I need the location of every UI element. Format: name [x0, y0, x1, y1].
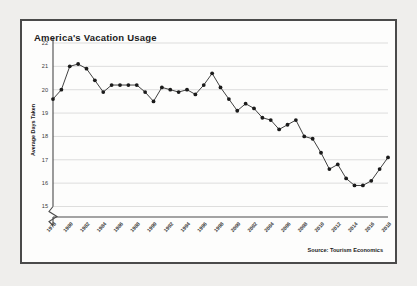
svg-text:2016: 2016 — [363, 221, 375, 234]
svg-text:2014: 2014 — [347, 221, 359, 234]
svg-text:22: 22 — [42, 40, 48, 46]
svg-text:16: 16 — [42, 180, 48, 186]
svg-text:15: 15 — [42, 203, 48, 209]
data-point-markers — [51, 62, 390, 187]
svg-text:1992: 1992 — [162, 221, 174, 234]
line-chart-svg: 1516171819202122 19781980198219841986198… — [22, 21, 395, 262]
svg-text:1978: 1978 — [45, 221, 57, 234]
svg-text:2004: 2004 — [263, 221, 275, 234]
svg-text:1980: 1980 — [62, 221, 74, 234]
svg-text:2008: 2008 — [296, 221, 308, 234]
x-axis-tick-labels: 1978198019821984198619881990199219941996… — [45, 221, 392, 234]
axes — [49, 39, 388, 225]
chart-figure: America's Vacation Usage 151617181920212… — [20, 19, 397, 264]
svg-text:Average Days Taken: Average Days Taken — [30, 104, 36, 156]
svg-text:2006: 2006 — [280, 221, 292, 234]
svg-text:1982: 1982 — [79, 221, 91, 234]
svg-text:2018: 2018 — [380, 221, 392, 234]
y-axis-tick-labels: 1516171819202122 — [42, 40, 48, 209]
svg-text:1996: 1996 — [196, 221, 208, 234]
svg-text:20: 20 — [42, 87, 48, 93]
source-note: Source: Tourism Economics — [308, 247, 383, 253]
svg-text:1986: 1986 — [112, 221, 124, 234]
svg-text:1988: 1988 — [129, 221, 141, 234]
y-axis-title: Average Days Taken — [30, 104, 36, 156]
svg-text:17: 17 — [42, 157, 48, 163]
data-series — [53, 64, 388, 185]
svg-text:21: 21 — [42, 63, 48, 69]
svg-text:2002: 2002 — [246, 221, 258, 234]
svg-text:2012: 2012 — [330, 221, 342, 234]
gridlines — [53, 43, 388, 206]
svg-text:1984: 1984 — [95, 221, 107, 234]
svg-text:1990: 1990 — [146, 221, 158, 234]
svg-text:1998: 1998 — [213, 221, 225, 234]
svg-text:19: 19 — [42, 110, 48, 116]
svg-text:2000: 2000 — [229, 221, 241, 234]
svg-text:2010: 2010 — [313, 221, 325, 234]
svg-text:18: 18 — [42, 133, 48, 139]
plot-area: 1516171819202122 19781980198219841986198… — [22, 21, 395, 262]
svg-text:1994: 1994 — [179, 221, 191, 234]
